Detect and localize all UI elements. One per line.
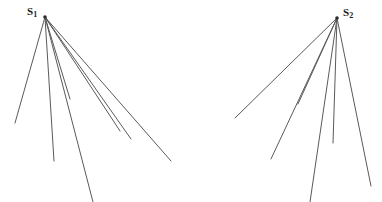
- ray-2-5: [333, 18, 337, 143]
- ray-1-1: [15, 17, 45, 123]
- ray-1-7: [45, 17, 131, 139]
- ray-lines-canvas: [0, 0, 382, 202]
- source-1-apex-point: [43, 15, 47, 19]
- ray-1-2: [45, 17, 54, 161]
- ray-2-4: [310, 18, 337, 202]
- source-1-label-subscript: 1: [33, 10, 37, 19]
- ray-diagram-figure: S1 S2: [0, 0, 382, 202]
- source-2-label: S2: [343, 7, 353, 20]
- ray-2-6: [337, 18, 371, 186]
- ray-1-3: [45, 17, 70, 99]
- source-2-ray-group: [235, 18, 371, 202]
- source-1-ray-group: [15, 17, 171, 202]
- ray-2-1: [235, 18, 337, 118]
- source-2-apex-point: [335, 16, 339, 20]
- source-1-label: S1: [27, 6, 37, 19]
- ray-1-5: [45, 17, 120, 131]
- source-2-label-subscript: 2: [349, 11, 353, 20]
